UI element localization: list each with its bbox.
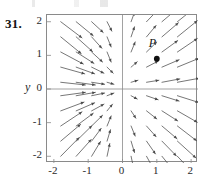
axis-lines: [47, 15, 198, 163]
x-tick-label: 1: [145, 164, 167, 176]
point-p-marker: [154, 56, 160, 62]
point-p-label: P: [149, 36, 156, 51]
x-tick-label: 2: [179, 164, 201, 176]
vector-field-canvas: [47, 15, 198, 163]
x-tick-label: -2: [42, 164, 64, 176]
x-tick-label: -1: [76, 164, 98, 176]
vector-field-figure: 31. y -2-1012 -2-1012 P: [0, 0, 208, 181]
plot-frame: P: [46, 14, 197, 162]
x-tick-label: 0: [111, 164, 133, 176]
